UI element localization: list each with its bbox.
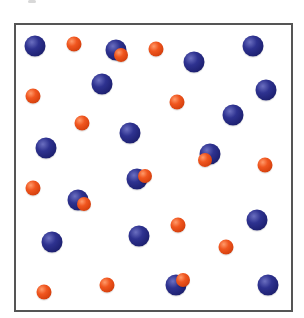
red-particle bbox=[149, 42, 164, 57]
blue-particle bbox=[36, 138, 57, 159]
bound-red-particle bbox=[114, 48, 128, 62]
bound-red-particle bbox=[77, 197, 91, 211]
red-particle bbox=[67, 37, 82, 52]
bound-red-particle bbox=[176, 273, 190, 287]
red-particle bbox=[37, 285, 52, 300]
red-particle bbox=[171, 218, 186, 233]
blue-particle bbox=[129, 226, 150, 247]
top-mark bbox=[28, 0, 36, 3]
red-particle bbox=[26, 89, 41, 104]
bound-red-particle bbox=[198, 153, 212, 167]
red-particle bbox=[26, 181, 41, 196]
blue-particle bbox=[247, 210, 268, 231]
red-particle bbox=[75, 116, 90, 131]
blue-particle bbox=[223, 105, 244, 126]
bound-red-particle bbox=[138, 169, 152, 183]
blue-particle bbox=[243, 36, 264, 57]
blue-particle bbox=[42, 232, 63, 253]
blue-particle bbox=[256, 80, 277, 101]
particle-container bbox=[14, 23, 293, 312]
blue-particle bbox=[120, 123, 141, 144]
blue-particle bbox=[258, 275, 279, 296]
blue-particle bbox=[25, 36, 46, 57]
blue-particle bbox=[92, 74, 113, 95]
red-particle bbox=[258, 158, 273, 173]
blue-particle bbox=[184, 52, 205, 73]
red-particle bbox=[100, 278, 115, 293]
red-particle bbox=[219, 240, 234, 255]
red-particle bbox=[170, 95, 185, 110]
